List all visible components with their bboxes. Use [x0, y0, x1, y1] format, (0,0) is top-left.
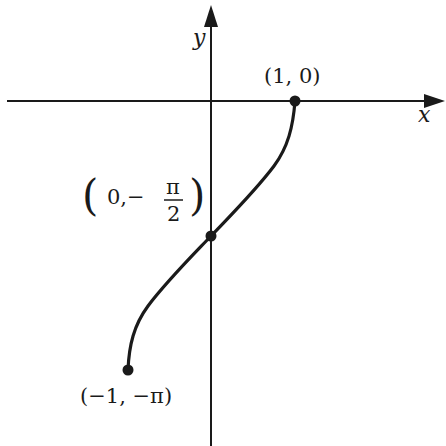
- y-axis-label: y: [192, 25, 206, 50]
- point-label-open-paren: (: [82, 171, 98, 220]
- point-label-close-paren: ): [189, 171, 205, 220]
- point-label-0-inner: 0,−: [107, 185, 145, 209]
- point-0-neg-pi-half: [206, 231, 217, 242]
- x-axis-label: x: [418, 102, 431, 127]
- point-label-1-0: (1, 0): [264, 64, 320, 88]
- graph-canvas: y x (1, 0) ( 0,− π 2 ) (−1, −π): [0, 0, 446, 446]
- point-neg1-neg-pi: [123, 365, 134, 376]
- point-1-0: [290, 96, 301, 107]
- point-label-neg1-neg-pi: (−1, −π): [80, 384, 172, 408]
- y-axis-arrow-icon: [204, 5, 218, 27]
- point-label-frac-num: π: [166, 175, 180, 199]
- point-label-frac-den: 2: [167, 202, 180, 226]
